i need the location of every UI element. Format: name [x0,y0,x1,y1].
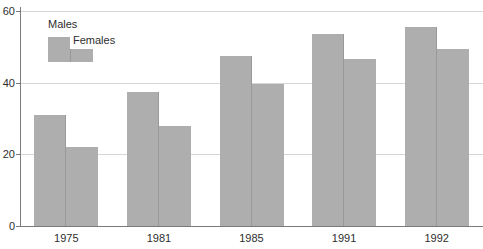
gridline-60 [20,11,483,12]
bar-males-1981 [127,92,159,226]
legend: Males Females [48,18,168,64]
legend-label-females: Females [73,34,115,46]
bar-females-1991 [344,59,376,226]
legend-label-males: Males [48,18,77,30]
x-tick-label-1985: 1985 [205,232,298,245]
bar-chart: 020406019751981198519911992 Males Female… [0,0,483,249]
bar-males-1985 [220,56,252,226]
y-tick-label-60: 60 [0,5,15,17]
x-tick-label-1975: 1975 [20,232,113,245]
bar-females-1975 [66,147,98,226]
bar-females-1985 [252,84,284,226]
x-tick-label-1992: 1992 [390,232,483,245]
bar-males-1991 [312,34,344,226]
x-axis-line [20,226,483,227]
x-tick-label-1981: 1981 [113,232,206,245]
legend-swatch-males-icon [48,37,70,62]
bar-females-1981 [159,126,191,226]
y-tick-label-0: 0 [0,220,15,232]
y-tick-60 [16,11,21,12]
y-tick-20 [16,154,21,155]
y-tick-40 [16,83,21,84]
bar-females-1992 [437,49,469,226]
y-tick-label-20: 20 [0,148,15,160]
legend-swatch-females-icon [70,49,93,62]
bar-males-1992 [405,27,437,226]
x-tick-label-1991: 1991 [298,232,391,245]
y-axis-line [20,7,21,227]
y-tick-label-40: 40 [0,77,15,89]
bar-males-1975 [34,115,66,226]
